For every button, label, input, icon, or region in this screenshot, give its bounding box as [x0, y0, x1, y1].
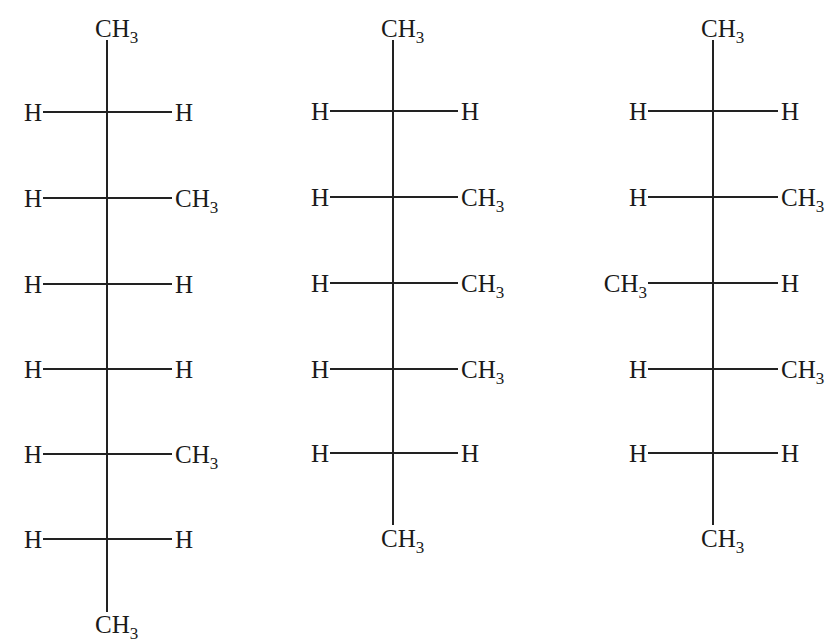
right-substituent-label: H — [781, 441, 799, 466]
substituent-line — [648, 282, 778, 284]
right-substituent-label: H — [781, 99, 799, 124]
left-substituent-label: H — [621, 441, 647, 466]
left-substituent-label: H — [621, 99, 647, 124]
left-substituent-label: CH3 — [585, 271, 647, 299]
right-substituent-label: H — [781, 271, 799, 296]
bottom-group-label: CH3 — [701, 526, 744, 554]
substituent-line — [648, 452, 778, 454]
top-group-label: CH3 — [701, 16, 744, 44]
substituent-line — [648, 196, 778, 198]
substituent-line — [648, 110, 778, 112]
right-substituent-label: CH3 — [781, 185, 824, 213]
left-substituent-label: H — [621, 357, 647, 382]
structure-3: CH3CH3HHHCH3CH3HHCH3HH — [0, 0, 839, 640]
substituent-line — [648, 368, 778, 370]
right-substituent-label: CH3 — [781, 357, 824, 385]
left-substituent-label: H — [621, 185, 647, 210]
